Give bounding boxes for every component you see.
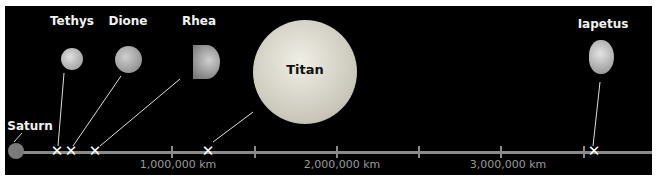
- saturn-planet: [8, 143, 24, 159]
- label-iapetus: Iapetus: [578, 17, 629, 31]
- label-dione: Dione: [109, 14, 148, 28]
- label-saturn: Saturn: [7, 119, 52, 133]
- label-tethys: Tethys: [50, 14, 94, 28]
- dione-moon: [115, 46, 142, 73]
- label-rhea: Rhea: [182, 14, 216, 28]
- tick-1000000: [171, 146, 173, 158]
- label-titan: Titan: [286, 62, 324, 77]
- tick-3000000: [500, 146, 502, 158]
- tick-label-2m: 2,000,000 km: [304, 158, 381, 171]
- distance-axis: [14, 151, 652, 154]
- tick-2500000: [418, 146, 420, 158]
- tick-1500000: [254, 146, 256, 158]
- tethys-marker-icon: ✕: [51, 144, 64, 159]
- rhea-marker-icon: ✕: [89, 144, 102, 159]
- rhea-moon: [193, 45, 220, 79]
- iapetus-moon: [589, 40, 614, 74]
- titan-marker-icon: ✕: [202, 144, 215, 159]
- dione-marker-icon: ✕: [65, 144, 78, 159]
- tick-label-3m: 3,000,000 km: [470, 158, 547, 171]
- tick-3500000: [583, 146, 585, 158]
- tethys-moon: [61, 48, 83, 70]
- iapetus-marker-icon: ✕: [588, 144, 601, 159]
- tick-2000000: [336, 146, 338, 158]
